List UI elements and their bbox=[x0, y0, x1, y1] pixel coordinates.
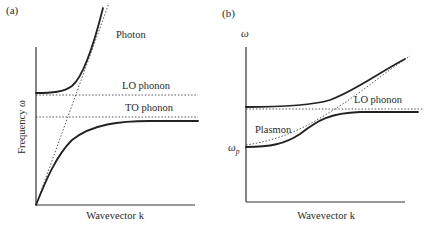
panel-b-omega-p-label: ωp bbox=[228, 141, 240, 156]
panel-a-lo-phonon-label: LO phonon bbox=[122, 80, 171, 91]
omega-p-subscript: p bbox=[235, 147, 240, 156]
panel-a-y-axis-label: Frequency ω bbox=[16, 100, 27, 154]
panel-b-tag: (b) bbox=[222, 7, 235, 20]
panel-a-to-phonon-label: TO phonon bbox=[125, 102, 174, 113]
panel-b-plasmon-label: Plasmon bbox=[255, 124, 292, 135]
panel-a-upper-polariton-curve bbox=[36, 8, 103, 93]
panel-a-x-axis-label: Wavevector k bbox=[86, 210, 145, 221]
diagram-canvas: (a) Photon LO phonon TO phonon Frequency… bbox=[0, 0, 429, 228]
panel-a: (a) Photon LO phonon TO phonon Frequency… bbox=[6, 3, 198, 221]
panel-b: (b) ω LO phonon Plasmon ωp Wavevector k bbox=[222, 7, 424, 221]
panel-b-lo-phonon-label: LO phonon bbox=[354, 94, 403, 105]
panel-b-y-axis-label: ω bbox=[241, 27, 249, 39]
panel-a-photon-label: Photon bbox=[116, 29, 147, 40]
panel-a-lower-polariton-curve bbox=[36, 121, 198, 205]
panel-a-photon-line bbox=[36, 3, 109, 205]
panel-b-x-axis-label: Wavevector k bbox=[297, 210, 356, 221]
panel-a-tag: (a) bbox=[6, 4, 19, 17]
